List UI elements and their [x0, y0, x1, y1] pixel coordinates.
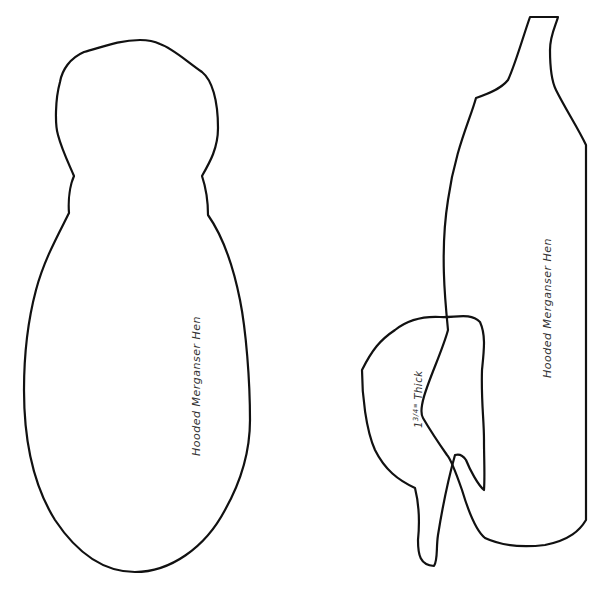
pattern-drawing — [0, 0, 611, 596]
side-view-label: Hooded Merganser Hen — [541, 238, 554, 378]
thickness-whole: 1 — [413, 421, 424, 428]
thickness-fraction: 3/4 — [412, 408, 420, 421]
side-view-outline — [421, 17, 586, 546]
top-view-outline — [24, 40, 250, 572]
thickness-suffix: Thick — [413, 371, 424, 404]
top-view-label: Hooded Merganser Hen — [190, 316, 203, 456]
thickness-unit: " — [413, 403, 424, 408]
head-piece-outline — [362, 316, 484, 566]
thickness-label: 13/4" Thick — [412, 371, 424, 428]
